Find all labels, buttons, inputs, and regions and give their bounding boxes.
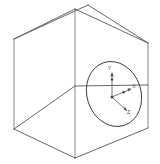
edge-front-bottom-to-right-bottom	[75, 128, 148, 158]
y-axis	[110, 72, 114, 97]
z-axis-line	[112, 97, 126, 110]
z-axis	[112, 97, 127, 111]
x-axis-tick-dot	[122, 91, 125, 94]
cube-diagram-svg: Y X Z	[0, 0, 160, 164]
x-axis-label: X	[132, 83, 136, 89]
z-axis-label: Z	[127, 109, 130, 115]
edge-front-top-to-right-top	[75, 9, 148, 43]
cube-top-face	[14, 5, 148, 43]
cube-back-edges	[14, 85, 148, 129]
figure-root: Y X Z	[0, 0, 160, 164]
edge-front-bottom-to-left-bottom	[14, 129, 75, 158]
inscribed-circle	[78, 54, 150, 133]
y-axis-label: Y	[108, 65, 112, 71]
edge-right-top-to-back-top	[88, 5, 148, 43]
x-axis-arrowhead	[127, 88, 131, 91]
edge-back-horizontal-left	[14, 86, 75, 129]
x-axis	[112, 88, 132, 97]
axis-origin-dot	[111, 96, 114, 99]
edge-back-horizontal-right	[75, 85, 148, 86]
edge-left-top-to-back-top	[14, 5, 88, 39]
y-axis-arrowhead	[110, 72, 114, 76]
y-axis-tick-dot	[111, 78, 114, 81]
cube-vertical-edges	[14, 9, 148, 158]
cube-bottom-face	[14, 128, 148, 158]
x-axis-line	[112, 90, 130, 98]
